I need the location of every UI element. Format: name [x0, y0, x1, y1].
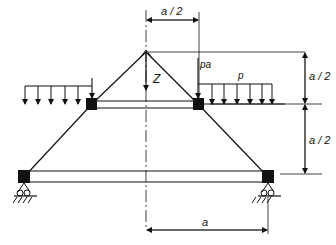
lower-left-joint: [18, 170, 30, 183]
upper-left-joint: [86, 98, 97, 110]
distributed-load-right: [198, 84, 285, 104]
upper-struts: [92, 52, 198, 104]
left-roller-support-icon: [13, 183, 37, 203]
distributed-load-label: p: [238, 71, 244, 81]
truss-diagram: [0, 0, 336, 245]
bottom-dimension-label: a: [202, 217, 208, 228]
top-dimension: [147, 12, 199, 100]
top-dimension-label: a / 2: [161, 6, 182, 17]
lower-right-joint: [262, 170, 274, 183]
right-lower-dimension-label: a / 2: [309, 135, 330, 146]
upper-beam: [92, 101, 198, 108]
apex-load-label: Z: [153, 73, 160, 85]
distributed-load-left: [25, 86, 92, 104]
upper-right-joint: [193, 98, 204, 110]
right-dimensions: [210, 53, 322, 174]
right-roller-support-icon: [252, 183, 281, 203]
right-upper-dimension-label: a / 2: [309, 71, 330, 82]
point-load-label: pa: [200, 60, 211, 70]
